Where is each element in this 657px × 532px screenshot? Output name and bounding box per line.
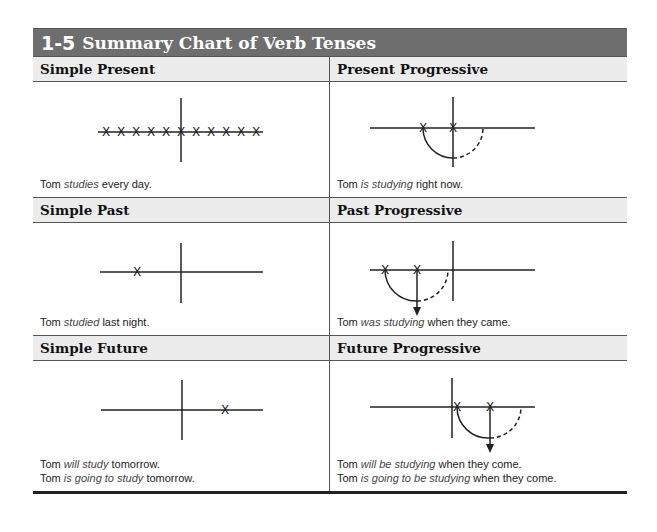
example-sentence: Tom is studying right now. — [337, 177, 463, 191]
event-mark: X — [177, 125, 185, 139]
cell-heading: Simple Future — [33, 335, 329, 361]
verb-phrase: studies — [64, 178, 99, 190]
cell-future-progressive: Future Progressive X X — [330, 335, 627, 491]
event-mark: X — [221, 403, 229, 417]
cell-heading: Simple Past — [33, 197, 329, 223]
verb-phrase: was studying — [361, 316, 425, 328]
cell-present-progressive: Present Progressive X X Tom is studying … — [330, 56, 627, 197]
cell-simple-past: Simple Past X Tom studied last night. — [33, 197, 330, 335]
event-mark: X — [419, 121, 427, 135]
verb-phrase: is going to study — [64, 472, 144, 484]
chart-title-bar: 1-5 Summary Chart of Verb Tenses — [33, 28, 627, 56]
progress-arc-dashed — [490, 407, 521, 438]
sentence-text: every day. — [99, 178, 152, 190]
progress-arc-dashed — [453, 128, 483, 158]
event-mark: X — [453, 400, 461, 414]
event-mark: X — [117, 125, 125, 139]
example-sentences: Tom studies every day. — [40, 177, 152, 191]
cell-body: X Tom studied last night. — [33, 223, 329, 335]
sentence-text: Tom — [40, 472, 64, 484]
sentence-text: tomorrow. — [143, 472, 194, 484]
sentence-text: Tom — [337, 178, 361, 190]
example-sentence: Tom studies every day. — [40, 177, 152, 191]
event-mark: X — [162, 125, 170, 139]
event-mark: X — [132, 125, 140, 139]
sentence-text: Tom — [337, 458, 361, 470]
cell-body: XXXXXXXXXXX Tom studies every day. — [33, 82, 329, 197]
verb-phrase: is going to be studying — [361, 472, 470, 484]
cell-body: X Tom will study tomorrow.Tom is going t… — [33, 361, 329, 491]
event-mark: X — [486, 400, 494, 414]
verb-phrase: will be studying — [361, 458, 436, 470]
example-sentences: Tom studied last night. — [40, 315, 149, 329]
sentence-text: when they come. — [470, 472, 556, 484]
event-mark: X — [381, 263, 389, 277]
sentence-text: Tom — [40, 178, 64, 190]
event-mark: X — [192, 125, 200, 139]
sentence-text: right now. — [413, 178, 463, 190]
chart-row: Simple Present XXXXXXXXXXX Tom studies e… — [33, 56, 627, 197]
chart-title: Summary Chart of Verb Tenses — [82, 33, 376, 53]
example-sentence: Tom is going to study tomorrow. — [40, 471, 195, 485]
sentence-text: last night. — [99, 316, 149, 328]
cell-past-progressive: Past Progressive X X To — [330, 197, 627, 335]
event-mark: X — [222, 125, 230, 139]
chart-row: Simple Future X Tom will study tomorrow.… — [33, 335, 627, 491]
cell-heading: Simple Present — [33, 56, 329, 82]
event-mark: X — [413, 263, 421, 277]
example-sentence: Tom is going to be studying when they co… — [337, 471, 557, 485]
event-mark: X — [102, 125, 110, 139]
cell-simple-future: Simple Future X Tom will study tomorrow.… — [33, 335, 330, 491]
verb-phrase: is studying — [361, 178, 413, 190]
example-sentence: Tom will study tomorrow. — [40, 457, 195, 471]
event-mark: X — [252, 125, 260, 139]
sentence-text: Tom — [337, 472, 361, 484]
event-mark: X — [237, 125, 245, 139]
example-sentence: Tom will be studying when they come. — [337, 457, 557, 471]
cell-heading: Past Progressive — [330, 197, 627, 223]
verb-phrase: will study — [64, 458, 109, 470]
example-sentences: Tom is studying right now. — [337, 177, 463, 191]
sentence-text: Tom — [40, 458, 64, 470]
event-mark: X — [207, 125, 215, 139]
event-mark: X — [133, 265, 141, 279]
example-sentences: Tom will be studying when they come.Tom … — [337, 457, 557, 485]
progress-arc-dashed — [417, 270, 448, 301]
verb-tense-summary-chart: 1-5 Summary Chart of Verb Tenses Simple … — [33, 28, 627, 494]
example-sentence: Tom studied last night. — [40, 315, 149, 329]
cell-body: X X Tom was studying when they came. — [330, 223, 627, 335]
event-mark: X — [449, 121, 457, 135]
bottom-rule — [33, 491, 627, 494]
event-mark: X — [147, 125, 155, 139]
sentence-text: Tom — [337, 316, 361, 328]
example-sentence: Tom was studying when they came. — [337, 315, 511, 329]
sentence-text: when they came. — [424, 316, 510, 328]
cell-simple-present: Simple Present XXXXXXXXXXX Tom studies e… — [33, 56, 330, 197]
cell-heading: Future Progressive — [330, 335, 627, 361]
example-sentences: Tom will study tomorrow.Tom is going to … — [40, 457, 195, 485]
arrow-head-icon — [486, 444, 494, 453]
example-sentences: Tom was studying when they came. — [337, 315, 511, 329]
section-number: 1-5 — [41, 32, 75, 54]
cell-body: X X Tom will be studying when they come.… — [330, 361, 627, 491]
sentence-text: tomorrow. — [108, 458, 159, 470]
cell-heading: Present Progressive — [330, 56, 627, 82]
chart-row: Simple Past X Tom studied last night. Pa… — [33, 197, 627, 335]
cell-body: X X Tom is studying right now. — [330, 82, 627, 197]
sentence-text: Tom — [40, 316, 64, 328]
sentence-text: when they come. — [435, 458, 521, 470]
verb-phrase: studied — [64, 316, 99, 328]
